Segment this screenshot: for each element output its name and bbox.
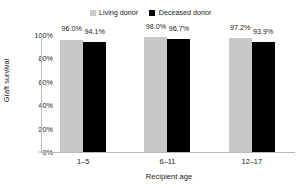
bar-group: 96.0%94.1% (60, 35, 106, 152)
bar-wrapper: 93.9% (252, 35, 275, 152)
bar-groups: 96.0%94.1%98.0%96.7%97.2%93.9% (41, 35, 294, 152)
bar-group: 97.2%93.9% (229, 35, 275, 152)
bar-wrapper: 98.0% (144, 35, 167, 152)
legend-entry-living-donor: Living donor (90, 9, 139, 16)
x-axis-title: Recipient age (41, 172, 297, 181)
bar-living-donor[interactable] (229, 38, 252, 152)
y-axis-title: Graft survival (1, 0, 13, 160)
legend-swatch-deceased-icon (149, 10, 155, 16)
bar-living-donor[interactable] (144, 37, 167, 152)
bar-deceased-donor[interactable] (252, 42, 275, 152)
bar-value-label: 94.1% (84, 28, 104, 35)
x-axis-line (41, 152, 295, 153)
bar-deceased-donor[interactable] (167, 39, 190, 152)
bar-wrapper: 96.0% (60, 35, 83, 152)
y-axis-title-text: Graft survival (3, 58, 12, 102)
legend-label-deceased-donor: Deceased donor (159, 9, 212, 16)
bar-value-label: 96.0% (61, 25, 81, 32)
bar-value-label: 96.7% (169, 24, 189, 31)
legend-swatch-living-icon (90, 10, 96, 16)
legend-label-living-donor: Living donor (99, 9, 138, 16)
bar-value-label: 98.0% (146, 23, 166, 30)
bar-living-donor[interactable] (60, 40, 83, 152)
x-axis-category-labels: 1–56–1112–17 (41, 157, 294, 166)
bar-value-label: 93.9% (253, 28, 273, 35)
bar-deceased-donor[interactable] (83, 42, 106, 152)
chart-legend: Living donor Deceased donor (0, 9, 301, 16)
x-axis-category-label: 1–5 (60, 157, 106, 166)
bar-value-label: 97.2% (230, 24, 250, 31)
bar-wrapper: 97.2% (229, 35, 252, 152)
graft-survival-bar-chart: Living donor Deceased donor Graft surviv… (0, 0, 301, 188)
legend-entry-deceased-donor: Deceased donor (149, 9, 211, 16)
bar-wrapper: 96.7% (167, 35, 190, 152)
x-axis-category-label: 12–17 (229, 157, 275, 166)
bar-wrapper: 94.1% (83, 35, 106, 152)
bar-group: 98.0%96.7% (144, 35, 190, 152)
x-axis-category-label: 6–11 (144, 157, 190, 166)
